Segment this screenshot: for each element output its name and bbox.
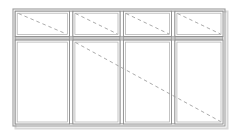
main-light-right[interactable] [175, 40, 223, 124]
transom-light-center-left[interactable] [73, 11, 120, 36]
main-light-4-glazing [177, 42, 221, 122]
main-light-2-glazing [75, 42, 118, 122]
main-light-1-glazing [17, 42, 67, 122]
mullion-3 [172, 11, 175, 124]
mullion-3-rail-joint [172, 37, 175, 41]
mullion-2-rail-joint [120, 37, 123, 41]
window-elevation-svg [0, 0, 240, 138]
transom-light-left[interactable] [15, 11, 69, 36]
main-light-left[interactable] [15, 40, 69, 124]
mullion-1-rail-joint [70, 37, 73, 41]
transom-light-center-right[interactable] [123, 11, 171, 36]
main-light-3-glazing [125, 42, 169, 122]
transom-rail [15, 37, 223, 41]
elevation-drawing-canvas [0, 0, 240, 138]
mullion-1 [70, 11, 73, 124]
transom-light-right[interactable] [175, 11, 223, 36]
panel-group[interactable] [15, 11, 223, 124]
main-light-center-left[interactable] [73, 40, 120, 124]
main-light-center-right[interactable] [123, 40, 171, 124]
